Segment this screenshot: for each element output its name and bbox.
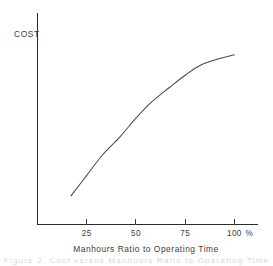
y-axis-title: COST [14,29,40,39]
tick-label-75: 75 [180,229,190,238]
page-caption-ghost: Figure 2. Cost versus Manhours Ratio to … [0,256,273,266]
x-axis-tick-labels: 25 50 75 100 % [82,229,253,238]
tick-label-25: 25 [82,229,92,238]
cost-curve [71,55,234,196]
x-axis-ticks [87,219,235,225]
tick-label-100: 100 [227,229,242,238]
x-axis-title: Manhours Ratio to Operating Time [73,244,219,254]
tick-label-50: 50 [131,229,141,238]
cost-vs-manhours-chart: COST 25 50 75 100 % Manhours Ratio to Op… [0,0,273,266]
x-axis-unit-label: % [245,229,253,238]
